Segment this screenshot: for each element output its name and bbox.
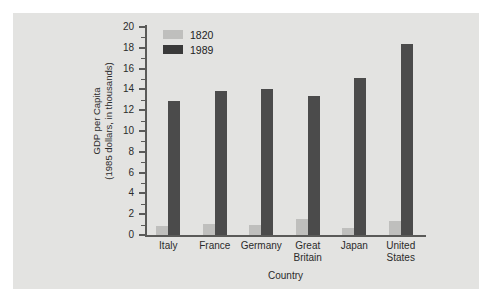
legend-item-1820: 1820 (163, 28, 237, 41)
bar-germany-1989 (261, 89, 273, 235)
y-axis-tick-label: 4 (108, 188, 134, 198)
chart-figure: GDP per Capita (1985 dollars, in thousan… (0, 0, 493, 303)
x-axis-tick-label-line: States (378, 252, 425, 264)
x-axis-tick-label: France (192, 240, 239, 252)
legend-swatch-icon (163, 30, 183, 39)
plot-area (145, 27, 424, 235)
chart-legend: 18201989 (163, 28, 237, 58)
bar-italy-1820 (156, 226, 168, 235)
bar-japan-1820 (342, 228, 354, 235)
y-axis-label-line1: GDP per Capita (91, 26, 103, 216)
y-axis-tick-label: 6 (108, 168, 134, 178)
x-axis-tick-label-line: France (192, 240, 239, 252)
x-axis-label: Country (145, 270, 426, 281)
x-axis-tick-label-line: Germany (238, 240, 285, 252)
x-axis-tick-label: Japan (331, 240, 378, 252)
bar-great-britain-1989 (308, 96, 320, 235)
y-axis-tick-label: 2 (108, 209, 134, 219)
y-axis-tick-label: 16 (108, 64, 134, 74)
bar-italy-1989 (168, 101, 180, 235)
x-axis-tick-label: GreatBritain (285, 240, 332, 264)
legend-item-1989: 1989 (163, 43, 237, 56)
x-axis-spine (145, 235, 426, 237)
y-axis-tick-label: 8 (108, 147, 134, 157)
y-axis-tick-labels: 02468101214161820 (108, 0, 134, 303)
legend-label: 1989 (190, 44, 213, 56)
x-axis-tick-label-line: Japan (331, 240, 378, 252)
bar-united-states-1989 (401, 44, 413, 235)
x-axis-tick-label: UnitedStates (378, 240, 425, 264)
bar-france-1989 (215, 91, 227, 235)
bar-france-1820 (203, 224, 215, 235)
y-axis-tick-label: 12 (108, 105, 134, 115)
y-axis-tick-label: 0 (108, 230, 134, 240)
y-axis-tick-label: 20 (108, 22, 134, 32)
x-axis-tick-label-line: Britain (285, 252, 332, 264)
bar-united-states-1820 (389, 221, 401, 235)
bar-great-britain-1820 (296, 219, 308, 235)
bar-japan-1989 (354, 78, 366, 235)
legend-label: 1820 (190, 29, 213, 41)
x-axis-tick-label: Italy (145, 240, 192, 252)
x-axis-tick-label: Germany (238, 240, 285, 252)
x-axis-tick-label-line: Great (285, 240, 332, 252)
y-axis-tick-label: 18 (108, 43, 134, 53)
x-axis-tick-label-line: Italy (145, 240, 192, 252)
x-axis-tick-label-line: United (378, 240, 425, 252)
y-axis-tick-label: 14 (108, 84, 134, 94)
bar-germany-1820 (249, 225, 261, 235)
y-axis-tick-label: 10 (108, 126, 134, 136)
legend-swatch-icon (163, 45, 183, 54)
